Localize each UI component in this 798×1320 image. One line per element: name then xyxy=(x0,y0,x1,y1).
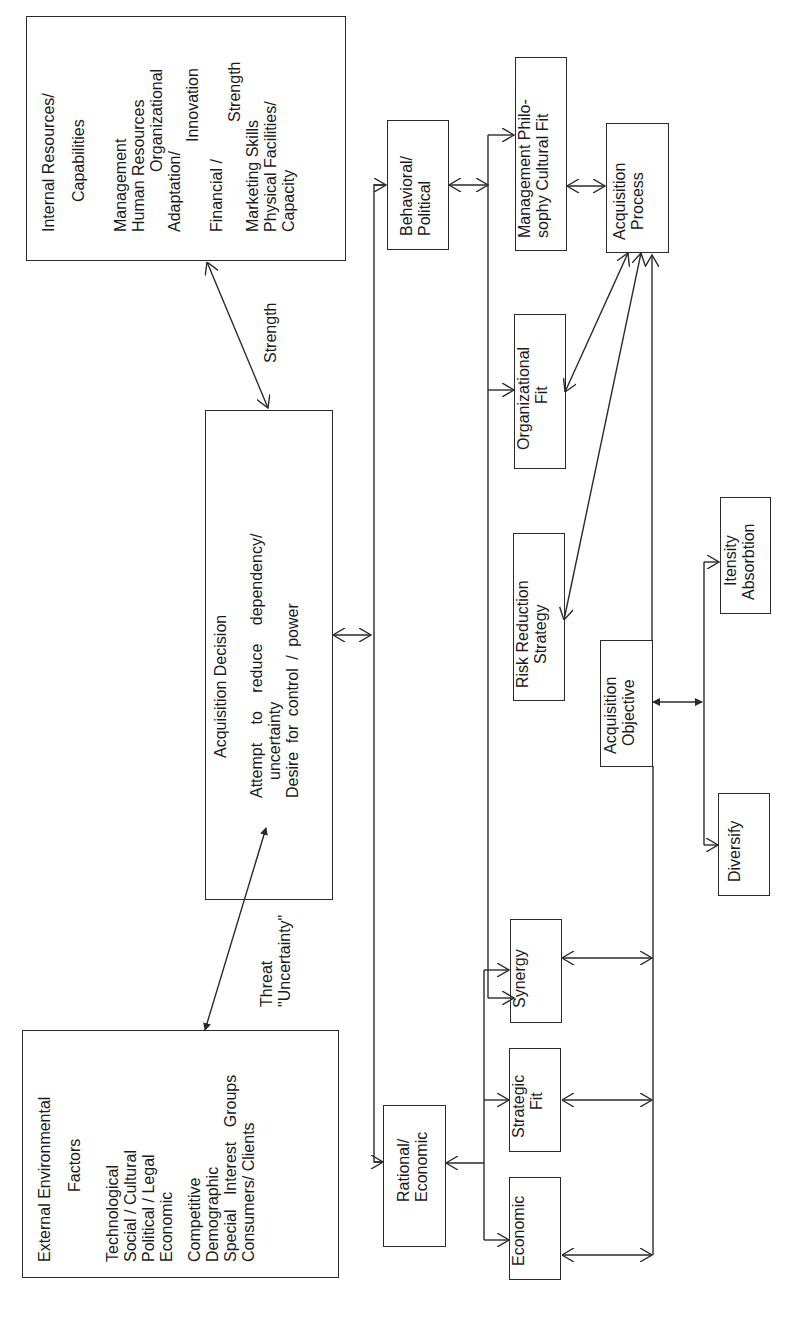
internal-resources-text: Internal Resources/ Capabilities Managem… xyxy=(40,17,298,232)
acq-objective-line2: Objective xyxy=(620,677,638,754)
external-item: Technological xyxy=(104,1032,122,1262)
itensity-line1: Itensity xyxy=(722,524,740,601)
economic-label: Economic xyxy=(510,1196,528,1266)
acq-objective-line1: Acquisition xyxy=(602,677,620,754)
internal-item: Innovation xyxy=(184,17,202,232)
mgmt-line2: sophy Cultural Fit xyxy=(534,99,552,238)
diversify-label: Diversify xyxy=(726,821,744,882)
internal-item: Adaptation/ xyxy=(166,17,184,232)
external-item: Economic xyxy=(158,1032,176,1262)
acquisition-decision-text: Acquisition Decision Attempt to reduce d… xyxy=(212,418,302,798)
behavioral-line2: Political xyxy=(416,156,434,236)
internal-item: Capacity xyxy=(280,17,298,232)
internal-item: Physical Facilities/ xyxy=(262,17,280,232)
rational-economic-text: Rational/ Economic xyxy=(395,1132,431,1202)
strategic-fit-text: Strategic Fit xyxy=(510,1075,546,1138)
decision-line: Attempt to reduce dependency/ xyxy=(248,418,266,798)
main-connector xyxy=(374,185,386,1162)
decision-line: uncertainty xyxy=(266,418,284,798)
rational-line1: Rational/ xyxy=(395,1132,413,1202)
synergy-label: Synergy xyxy=(511,949,529,1008)
acquisition-process-text: Acquisition Process xyxy=(611,163,647,240)
strategic-fit-line1: Strategic xyxy=(510,1075,528,1138)
strategic-fit-line2: Fit xyxy=(528,1075,546,1138)
external-factors-subtitle: Factors xyxy=(66,1032,84,1262)
acquisition-decision-title: Acquisition Decision xyxy=(212,418,230,798)
internal-item: Human Resources xyxy=(130,17,148,232)
external-item: Consumers/ Clients xyxy=(240,1032,258,1262)
strength-arrow xyxy=(207,262,268,408)
threat-label-line1: Threat xyxy=(258,915,276,1007)
internal-item: Marketing Skills xyxy=(244,17,262,232)
external-item: Social / Cultural xyxy=(122,1032,140,1262)
internal-resources-subtitle: Capabilities xyxy=(70,17,88,232)
management-philosophy-text: Management Philo- sophy Cultural Fit xyxy=(516,99,552,238)
risk-reduction-text: Risk Reduction Strategy xyxy=(514,580,550,688)
external-factors-title: External Environmental xyxy=(36,1032,54,1262)
mgmt-line1: Management Philo- xyxy=(516,99,534,238)
organizational-fit-text: Organizational Fit xyxy=(515,347,551,450)
strength-label: Strength xyxy=(262,303,280,363)
rational-line2: Economic xyxy=(413,1132,431,1202)
org-fit-line2: Fit xyxy=(533,347,551,450)
internal-item: Management xyxy=(112,17,130,232)
external-item: Competitive xyxy=(186,1032,204,1262)
decision-line: Desire for control / power xyxy=(284,418,302,798)
threat-label-line2: "Uncertainty" xyxy=(276,915,294,1007)
external-item: Political / Legal xyxy=(140,1032,158,1262)
itensity-absorbtion-text: Itensity Absorbtion xyxy=(722,524,758,601)
acquisition-objective-text: Acquisition Objective xyxy=(602,677,638,754)
org-fit-line1: Organizational xyxy=(515,347,533,450)
external-item: Demographic xyxy=(204,1032,222,1262)
risk-line2: Strategy xyxy=(532,580,550,688)
threat-label: Threat "Uncertainty" xyxy=(258,915,294,1007)
internal-item: Organizational xyxy=(148,17,166,232)
external-item: Special Interest Groups xyxy=(222,1032,240,1262)
internal-resources-title: Internal Resources/ xyxy=(40,17,58,232)
risk-line1: Risk Reduction xyxy=(514,580,532,688)
internal-item: Financial / xyxy=(208,17,226,232)
external-factors-text: External Environmental Factors Technolog… xyxy=(36,1032,258,1262)
behavioral-political-text: Behavioral/ Political xyxy=(398,156,434,236)
acq-process-line2: Process xyxy=(629,163,647,240)
behavioral-line1: Behavioral/ xyxy=(398,156,416,236)
acq-process-line1: Acquisition xyxy=(611,163,629,240)
internal-item: Strength xyxy=(226,17,244,232)
itensity-line2: Absorbtion xyxy=(740,524,758,601)
